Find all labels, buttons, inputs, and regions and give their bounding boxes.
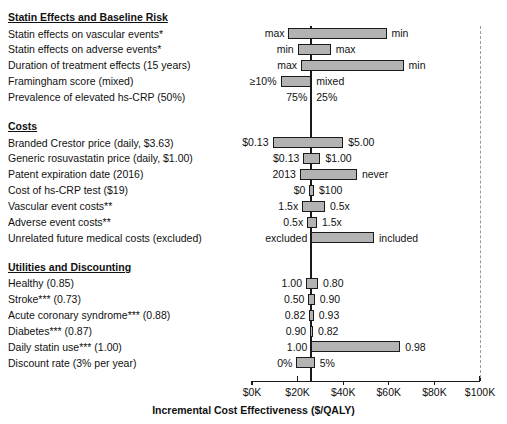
- bar-low-end-label: max: [265, 28, 285, 39]
- tornado-bar: [298, 44, 331, 55]
- x-tick-mark: [434, 381, 435, 385]
- bar-high-end-label: max: [336, 44, 356, 55]
- parameter-label: Statin effects on vascular events*: [8, 28, 163, 40]
- bar-low-end-label: 75%: [286, 92, 307, 103]
- tornado-bar: [309, 310, 314, 321]
- bar-high-end-label: 0.93: [319, 310, 339, 321]
- bar-low-end-label: 2013: [273, 169, 296, 180]
- parameter-label: Healthy (0.85): [8, 277, 74, 289]
- tornado-bar: [301, 60, 404, 71]
- tornado-bar: [307, 217, 317, 228]
- bar-high-end-label: 0.98: [405, 342, 425, 353]
- bar-high-end-label: 0.5x: [330, 201, 350, 212]
- parameter-label: Patent expiration date (2016): [8, 168, 143, 180]
- group-heading: Costs: [8, 120, 37, 132]
- tornado-bar: [311, 232, 374, 243]
- bar-high-end-label: 0.90: [320, 294, 340, 305]
- x-tick-mark: [343, 381, 344, 385]
- tornado-bar: [302, 201, 325, 212]
- x-tick-label: $0K: [222, 386, 282, 398]
- tornado-diagram-figure: Statin Effects and Baseline RiskStatin e…: [0, 0, 507, 424]
- parameter-label: Discount rate (3% per year): [8, 357, 136, 369]
- parameter-label: Vascular event costs**: [8, 200, 112, 212]
- parameter-label: Diabetes*** (0.87): [8, 325, 92, 337]
- tornado-bar: [309, 185, 314, 196]
- bar-high-end-label: mixed: [316, 76, 344, 87]
- tornado-bar: [308, 294, 314, 305]
- parameter-label: Duration of treatment effects (15 years): [8, 59, 190, 71]
- bar-low-end-label: 0%: [277, 358, 292, 369]
- bar-high-end-label: never: [362, 169, 388, 180]
- parameter-label: Stroke*** (0.73): [8, 293, 81, 305]
- x-tick-label: $80K: [404, 386, 464, 398]
- bar-low-end-label: ≥10%: [250, 76, 277, 87]
- bar-low-end-label: 0.82: [285, 310, 305, 321]
- group-heading: Statin Effects and Baseline Risk: [8, 11, 168, 23]
- right-edge-guide: [480, 26, 481, 378]
- x-tick-mark: [251, 381, 252, 385]
- x-tick-label: $40K: [313, 386, 373, 398]
- bar-high-end-label: 1.5x: [322, 217, 342, 228]
- parameter-label: Framingham score (mixed): [8, 75, 133, 87]
- parameter-label: Unrelated future medical costs (excluded…: [8, 232, 202, 244]
- tornado-bar: [311, 341, 400, 352]
- x-tick-label: $60K: [359, 386, 419, 398]
- parameter-label: Acute coronary syndrome*** (0.88): [8, 309, 170, 321]
- parameter-label: Daily statin use*** (1.00): [8, 341, 122, 353]
- bar-high-end-label: 0.82: [318, 326, 338, 337]
- bar-low-end-label: 0.50: [284, 294, 304, 305]
- bar-low-end-label: 0.5x: [283, 217, 303, 228]
- bar-low-end-label: $0.13: [273, 153, 299, 164]
- parameter-label: Statin effects on adverse events*: [8, 43, 161, 55]
- bar-high-end-label: min: [409, 60, 426, 71]
- parameter-label: Branded Crestor price (daily, $3.63): [8, 137, 174, 149]
- bar-high-end-label: 5%: [320, 358, 335, 369]
- tornado-bar: [300, 169, 357, 180]
- x-tick-mark: [388, 381, 389, 385]
- x-axis-title: Incremental Cost Effectiveness ($/QALY): [0, 404, 507, 416]
- tornado-bar: [296, 357, 314, 368]
- bar-high-end-label: min: [392, 28, 409, 39]
- baseline-reference-line: [310, 26, 312, 381]
- group-heading: Utilities and Discounting: [8, 261, 131, 273]
- tornado-bar: [273, 137, 344, 148]
- x-axis-line: [252, 381, 480, 382]
- bar-low-end-label: 1.5x: [278, 201, 298, 212]
- parameter-label: Generic rosuvastatin price (daily, $1.00…: [8, 152, 193, 164]
- x-tick-mark: [297, 376, 298, 381]
- bar-low-end-label: max: [277, 60, 297, 71]
- bar-low-end-label: 0.90: [286, 326, 306, 337]
- bar-high-end-label: $100: [319, 185, 342, 196]
- tornado-bar: [288, 28, 386, 39]
- x-tick-label: $100K: [450, 386, 507, 398]
- bar-high-end-label: 0.80: [323, 278, 343, 289]
- tornado-bar: [303, 153, 320, 164]
- tornado-bar: [310, 326, 313, 337]
- tornado-bar: [306, 278, 318, 289]
- tornado-bar: [281, 76, 312, 87]
- bar-low-end-label: $0.13: [242, 137, 268, 148]
- bar-high-end-label: $1.00: [325, 153, 351, 164]
- parameter-label: Cost of hs-CRP test ($19): [8, 184, 128, 196]
- parameter-label: Prevalence of elevated hs-CRP (50%): [8, 91, 185, 103]
- x-tick-mark: [479, 376, 480, 381]
- bar-low-end-label: $0: [294, 185, 306, 196]
- bar-high-end-label: included: [379, 233, 418, 244]
- bar-high-end-label: $5.00: [348, 137, 374, 148]
- x-tick-label: $20K: [268, 386, 328, 398]
- bar-low-end-label: 1.00: [282, 278, 302, 289]
- bar-high-end-label: 25%: [316, 92, 337, 103]
- bar-low-end-label: min: [277, 44, 294, 55]
- bar-low-end-label: excluded: [265, 233, 307, 244]
- parameter-label: Adverse event costs**: [8, 216, 111, 228]
- bar-low-end-label: 1.00: [287, 342, 307, 353]
